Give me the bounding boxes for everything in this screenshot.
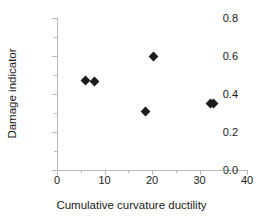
y-minor-tick — [54, 151, 57, 152]
y-tick-label-0.4: 0.4 — [223, 89, 238, 100]
plot-area: 0.00.20.40.60.8 010203040 — [57, 18, 247, 170]
y-minor-tick — [54, 75, 57, 76]
y-tick-label-0.2: 0.2 — [223, 127, 238, 138]
x-tick-label-10: 10 — [90, 175, 120, 186]
y-tick-0.6 — [52, 56, 57, 57]
x-tick-label-30: 30 — [185, 175, 215, 186]
x-minor-tick — [223, 170, 224, 173]
x-axis-title: Cumulative curvature ductility — [0, 199, 263, 212]
y-minor-tick — [54, 37, 57, 38]
data-point-1 — [90, 76, 100, 86]
y-minor-tick — [54, 113, 57, 114]
x-minor-tick — [128, 170, 129, 173]
y-tick-0.2 — [52, 132, 57, 133]
y-tick-label-0.6: 0.6 — [223, 51, 238, 62]
data-point-2 — [140, 106, 150, 116]
y-tick-0.8 — [52, 18, 57, 19]
y-tick-label-0.0: 0.0 — [223, 165, 238, 176]
data-point-3 — [148, 51, 158, 61]
y-axis-title: Damage indicator — [6, 19, 19, 169]
scatter-chart-figure: 0.00.20.40.60.8 010203040 Cumulative cur… — [0, 0, 263, 222]
x-minor-tick — [81, 170, 82, 173]
y-tick-label-0.8: 0.8 — [223, 13, 238, 24]
y-tick-0.4 — [52, 94, 57, 95]
x-tick-label-0: 0 — [42, 175, 72, 186]
x-tick-label-40: 40 — [232, 175, 262, 186]
x-tick-label-20: 20 — [137, 175, 167, 186]
x-minor-tick — [176, 170, 177, 173]
